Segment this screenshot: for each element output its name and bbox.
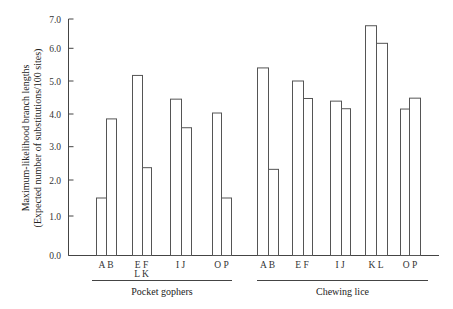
group-label: Chewing lice xyxy=(316,286,370,297)
bar-chewing-lice-a xyxy=(258,68,269,256)
bar-pocket-gophers-i xyxy=(171,99,182,255)
y-tick-label: 6.0 xyxy=(49,44,61,54)
y-tick-label: 0.0 xyxy=(49,251,61,261)
bar-chewing-lice-o xyxy=(401,109,410,255)
x-axis-labels: A BE FL KI JO PA BE FI JK LO P xyxy=(98,260,417,279)
category-label: O P xyxy=(403,260,418,270)
bar-pocket-gophers-e xyxy=(133,75,143,255)
y-tick-label: 3.0 xyxy=(49,142,61,152)
category-label: I J xyxy=(335,260,345,270)
bar-pocket-gophers-p xyxy=(222,198,232,256)
bar-pocket-gophers-a xyxy=(97,198,107,256)
bar-chart: Maximum-likelihood branch lengths (Expec… xyxy=(0,0,453,309)
bar-pocket-gophers-f xyxy=(143,168,152,256)
category-label: I J xyxy=(176,260,186,270)
bars xyxy=(97,26,421,256)
category-label: E F xyxy=(295,260,308,270)
bar-chewing-lice-f xyxy=(304,98,313,255)
bar-chewing-lice-l xyxy=(377,43,388,255)
bar-chewing-lice-i xyxy=(331,101,342,255)
bar-chewing-lice-e xyxy=(293,81,304,256)
y-tick-label: 2.0 xyxy=(49,176,61,186)
y-axis-title-main: Maximum-likelihood branch lengths xyxy=(20,65,31,212)
bar-chewing-lice-b xyxy=(269,169,279,255)
bar-pocket-gophers-b xyxy=(107,119,117,256)
bar-chewing-lice-k xyxy=(366,26,377,256)
y-tick-label: 4.0 xyxy=(49,110,61,120)
bar-chewing-lice-j xyxy=(342,109,351,256)
y-tick-label: 1.0 xyxy=(49,212,61,222)
bar-pocket-gophers-j xyxy=(182,128,192,256)
y-axis-title-sub: (Expected number of substitutions/100 si… xyxy=(32,49,44,228)
bar-pocket-gophers-o xyxy=(213,113,222,255)
bar-chewing-lice-p xyxy=(410,98,421,255)
category-label: O P xyxy=(214,260,229,270)
category-label-secondary: L K xyxy=(134,269,149,279)
category-label: A B xyxy=(98,260,113,270)
y-axis-title: Maximum-likelihood branch lengths (Expec… xyxy=(20,49,44,228)
group-label: Pocket gophers xyxy=(131,286,192,297)
category-label: K L xyxy=(368,260,383,270)
y-tick-label: 5.0 xyxy=(49,77,61,87)
group-labels: Pocket gophersChewing lice xyxy=(92,281,428,298)
y-tick-label: 7.0 xyxy=(49,15,61,25)
category-label: A B xyxy=(260,260,275,270)
